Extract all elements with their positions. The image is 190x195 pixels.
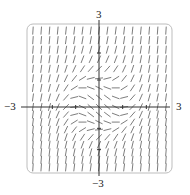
slope-segment: [73, 46, 75, 54]
slope-segment: [165, 111, 166, 119]
slope-segment: [103, 77, 111, 79]
slope-segment: [122, 75, 127, 81]
slope-segment: [49, 126, 51, 134]
slope-segment: [112, 128, 119, 132]
slope-segment: [49, 27, 50, 35]
slope-segment: [87, 129, 95, 131]
slope-segment: [41, 46, 42, 54]
slope-segment: [112, 113, 119, 116]
slope-segment: [157, 84, 158, 92]
slope-segment: [105, 134, 110, 140]
slope-segment: [112, 76, 119, 80]
slope-segment: [65, 148, 66, 156]
slope-segment: [33, 55, 34, 63]
slope-segment: [115, 156, 116, 164]
slope-segment: [40, 94, 42, 102]
slope-segment: [120, 114, 128, 116]
slope-segment: [87, 121, 94, 124]
slope-segment: [49, 84, 51, 92]
slope-segment: [105, 66, 110, 72]
slope-segment: [88, 134, 93, 140]
slope-segment: [115, 46, 117, 54]
slope-segment: [132, 141, 134, 149]
slope-segment: [104, 112, 110, 117]
slope-segment: [56, 94, 59, 101]
slope-segment: [157, 163, 158, 171]
slope-segment: [41, 133, 42, 141]
slope-segment: [107, 27, 108, 35]
slope-segment: [104, 87, 111, 90]
y-axis-min-label: −3: [92, 178, 104, 189]
slope-segment: [33, 65, 34, 73]
slope-segment: [123, 46, 125, 54]
slope-segment: [130, 94, 135, 100]
slope-segment: [32, 93, 33, 101]
slope-segment: [149, 46, 150, 54]
slope-segment: [57, 126, 59, 134]
slope-segment: [41, 27, 42, 35]
slope-segment: [149, 163, 150, 171]
slope-segment: [70, 114, 78, 116]
slope-segment: [41, 118, 42, 126]
slope-segment: [124, 163, 125, 171]
slope-segment: [140, 65, 142, 73]
slope-segment: [32, 118, 33, 126]
slope-segment: [149, 27, 150, 35]
slope-segment: [32, 111, 33, 119]
slope-segment: [165, 118, 166, 126]
slope-segment: [79, 96, 86, 99]
slope-segment: [115, 36, 116, 44]
slope-segment: [157, 46, 158, 54]
slope-segment: [114, 134, 118, 141]
slope-segment: [104, 121, 111, 124]
slope-segment: [41, 65, 42, 73]
slope-segment: [124, 27, 125, 35]
slope-segment: [90, 36, 91, 44]
slope-segment: [73, 148, 75, 156]
slope-segment: [148, 111, 150, 119]
slope-segment: [115, 27, 116, 35]
slope-segment: [49, 133, 50, 141]
slope-segment: [33, 133, 34, 141]
slope-segment: [41, 84, 42, 92]
slope-segment: [32, 84, 33, 92]
slope-segment: [148, 126, 150, 134]
slope-segment: [65, 133, 68, 141]
slope-segment: [49, 163, 50, 171]
slope-segment: [49, 141, 50, 149]
slope-segment: [131, 75, 134, 82]
slope-segment: [79, 76, 86, 80]
slope-segment: [157, 156, 158, 164]
slope-segment: [165, 93, 166, 101]
slope-segment: [140, 148, 141, 156]
slope-segment: [80, 65, 84, 72]
slope-segment: [166, 148, 167, 156]
slope-segment: [148, 84, 150, 92]
slope-segment: [48, 111, 50, 119]
slope-segment: [157, 65, 158, 73]
slope-segment: [115, 163, 116, 171]
slope-segment: [49, 148, 50, 156]
slope-segment: [90, 148, 92, 156]
slope-segment: [73, 134, 76, 141]
slope-segment: [140, 27, 141, 35]
slope-segment: [139, 84, 142, 91]
slope-segment: [33, 141, 34, 149]
slope-segment: [157, 148, 158, 156]
slope-segment: [41, 141, 42, 149]
slope-segment: [57, 148, 58, 156]
slope-segment: [49, 65, 50, 73]
slope-segment: [41, 163, 42, 171]
slope-segment: [114, 141, 117, 148]
slope-segment: [120, 96, 128, 98]
slope-segment: [57, 65, 59, 73]
slope-field-plot: [0, 0, 190, 195]
slope-segment: [104, 95, 110, 100]
slope-segment: [140, 141, 142, 149]
slope-segment: [64, 126, 67, 133]
slope-segment: [32, 126, 33, 134]
slope-segment: [33, 27, 34, 35]
slope-segment: [157, 133, 158, 141]
slope-segment: [107, 36, 109, 44]
slope-segment: [41, 36, 42, 44]
